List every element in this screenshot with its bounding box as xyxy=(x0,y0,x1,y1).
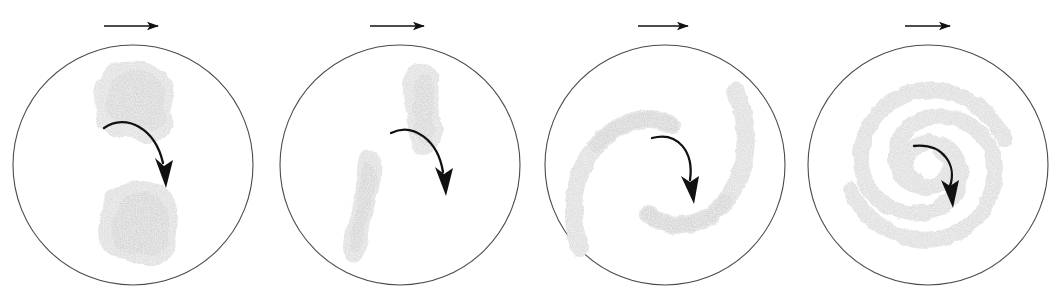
panel-1 xyxy=(13,26,253,285)
figure-canvas xyxy=(0,0,1058,305)
disk-outline xyxy=(280,45,520,285)
disk-outline xyxy=(808,45,1048,285)
panel-3 xyxy=(545,26,785,285)
panel-4 xyxy=(808,26,1048,285)
spiral-winding-figure: Differential rotation winding of gas clo… xyxy=(0,0,1058,305)
panel-2 xyxy=(280,26,520,285)
